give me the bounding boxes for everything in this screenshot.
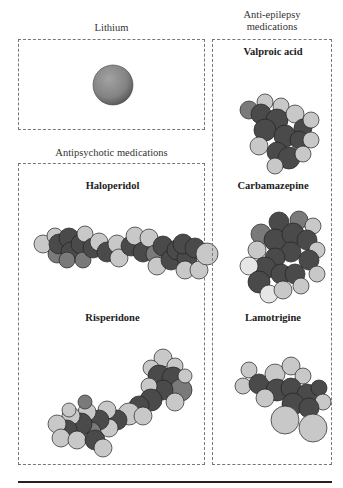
lamotrigine-label: Lamotrigine	[213, 312, 333, 323]
atom-sphere	[303, 112, 319, 128]
atom-sphere	[52, 429, 70, 447]
risperidone-molecule	[41, 344, 181, 454]
atom-sphere	[311, 380, 327, 396]
valproic-acid-molecule	[227, 86, 317, 166]
antiepilepsy-box: Valproic acid Carbamazepine Lamotrigine	[212, 39, 332, 465]
haloperidol-label: Haloperidol	[19, 180, 206, 191]
antiepilepsy-title-line1: Anti-epilepsy	[212, 9, 332, 21]
lithium-atom	[92, 64, 134, 106]
atom-sphere	[295, 146, 311, 162]
antipsychotic-box: Haloperidol Risperidone	[18, 163, 205, 465]
atom-sphere	[299, 414, 327, 442]
carbamazepine-molecule	[229, 206, 319, 296]
atom-sphere	[94, 439, 112, 457]
atom-sphere	[78, 395, 92, 409]
bottom-rule	[18, 481, 332, 483]
atom-sphere	[62, 403, 76, 417]
atom-sphere	[293, 278, 309, 294]
atom-sphere	[309, 266, 325, 282]
risperidone-label: Risperidone	[19, 312, 206, 323]
atom-sphere	[166, 393, 184, 411]
atom-sphere	[59, 252, 75, 268]
valproic-acid-label: Valproic acid	[213, 46, 333, 57]
antiepilepsy-group-title: Anti-epilepsy medications	[212, 9, 332, 33]
atom-sphere	[271, 406, 299, 434]
atom-sphere	[248, 241, 266, 259]
lithium-group-title: Lithium	[18, 22, 205, 34]
atom-sphere	[235, 378, 251, 394]
carbamazepine-label: Carbamazepine	[213, 180, 333, 191]
atom-sphere	[68, 431, 86, 449]
antiepilepsy-title-line2: medications	[212, 21, 332, 33]
atom-sphere	[178, 369, 192, 383]
lamotrigine-molecule	[223, 348, 323, 438]
haloperidol-molecule	[27, 214, 207, 276]
atom-sphere	[134, 407, 152, 425]
atom-sphere	[250, 137, 268, 155]
atom-sphere	[256, 389, 274, 407]
lithium-box	[18, 39, 205, 130]
atom-sphere	[267, 158, 283, 174]
atom-sphere	[274, 281, 292, 299]
atom-sphere	[303, 132, 319, 148]
antipsychotic-group-title: Antipsychotic medications	[18, 147, 205, 159]
